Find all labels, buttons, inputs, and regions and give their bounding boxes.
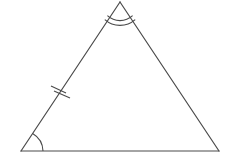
triangle bbox=[21, 2, 219, 151]
triangle-diagram bbox=[0, 0, 235, 157]
right-side bbox=[120, 2, 219, 151]
left-side bbox=[21, 2, 120, 151]
bottom-left-angle-arc-icon bbox=[33, 134, 43, 152]
apex-angle-double-arc-icon bbox=[105, 16, 135, 26]
